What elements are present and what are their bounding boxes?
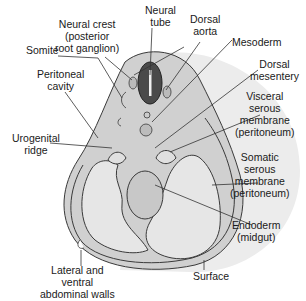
label-urogenital-ridge: Urogenital ridge (12, 132, 60, 156)
label-mesoderm: Mesoderm (232, 36, 282, 48)
label-dorsal-aorta: Dorsal aorta (190, 13, 220, 37)
leader-peritoneal-cavity (65, 92, 98, 138)
dorsal-aorta (140, 124, 152, 136)
label-neural-crest: Neural crest (posterior root ganglion) (55, 18, 119, 54)
neural-crest-right (163, 86, 171, 98)
label-neural-tube: Neural tube (145, 4, 176, 28)
label-somatic-membrane: Somatic serous membrane (peritoneum) (230, 151, 290, 199)
label-peritoneal-cavity: Peritoneal cavity (37, 68, 84, 92)
label-surface: Surface (193, 270, 229, 282)
embryo-cross-section-diagram: Neural crest (posterior root ganglion) N… (0, 0, 306, 301)
notochord (144, 112, 150, 118)
label-lateral-walls: Lateral and ventral abdominal walls (40, 264, 115, 300)
label-somite: Somite (26, 44, 59, 56)
label-visceral-membrane: Visceral serous membrane (peritoneum) (235, 90, 295, 138)
label-endoderm: Endoderm (midgut) (232, 219, 280, 243)
label-dorsal-mesentery: Dorsal mesentery (250, 58, 299, 82)
midgut-endoderm (127, 171, 163, 219)
